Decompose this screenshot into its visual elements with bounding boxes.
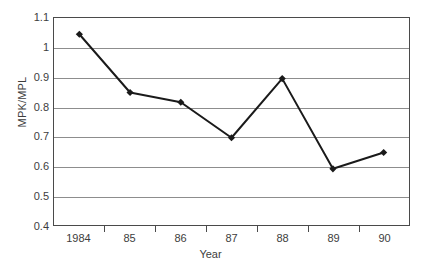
x-axis-title: Year (0, 248, 421, 260)
x-tick-mark (104, 226, 105, 232)
chart-figure: MPK/MPL 1.110.90.80.70.60.50.4 198485868… (0, 0, 421, 268)
x-tick-mark (308, 226, 309, 232)
x-tick-mark (257, 226, 258, 232)
x-tick-label: 90 (355, 232, 415, 244)
x-tick-mark (206, 226, 207, 232)
x-tick-mark (359, 226, 360, 232)
x-tick-mark (155, 226, 156, 232)
x-axis-tick-labels: 1984858687888990 (0, 0, 421, 268)
